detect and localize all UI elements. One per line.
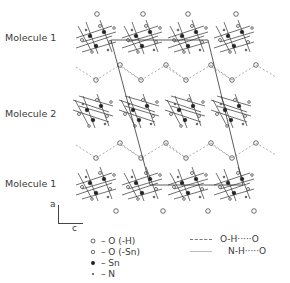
legend-item-sn: – Sn (88, 258, 120, 268)
row-label-molecule-2: Molecule 2 (5, 108, 56, 119)
small-dot-icon (88, 269, 98, 279)
legend-item-n: – N (88, 269, 115, 279)
row-label-molecule-1-top: Molecule 1 (5, 32, 56, 43)
legend-item-o-h: – O (-H) (88, 236, 135, 246)
legend-label: N-H·····O (228, 246, 266, 256)
legend-item-o-sn: – O (-Sn) (88, 247, 140, 257)
axis-label-a: a (50, 199, 56, 209)
dashed-line-icon (190, 239, 212, 240)
legend-label: – O (-Sn) (101, 247, 140, 257)
legend-label: – Sn (101, 258, 120, 268)
open-circle-icon (88, 236, 98, 246)
row-label-molecule-1-bottom: Molecule 1 (5, 178, 56, 189)
legend-label: – N (101, 269, 115, 279)
legend-item-nh-o-hbond: N-H·····O (190, 246, 266, 256)
small-open-circle-icon (88, 247, 98, 257)
legend-label: O-H·····O (220, 234, 259, 244)
filled-circle-icon (88, 258, 98, 268)
solid-line-icon (190, 251, 212, 252)
legend-label: – O (-H) (101, 236, 135, 246)
axis-indicator (58, 205, 83, 224)
axis-label-c: c (72, 223, 77, 233)
legend-item-oh-o-hbond: O-H·····O (190, 234, 259, 244)
